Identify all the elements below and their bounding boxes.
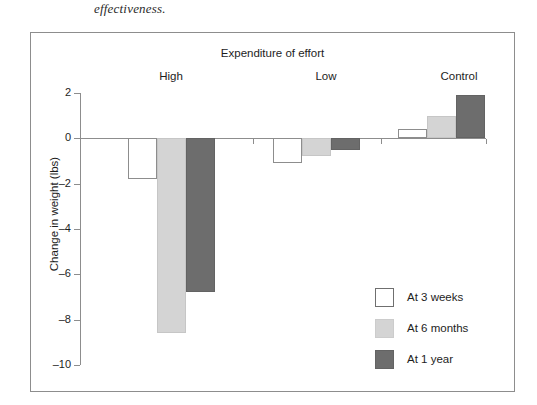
y-axis-line	[80, 93, 81, 365]
y-tick	[74, 229, 80, 230]
y-axis-title: Change in weight (lbs)	[48, 129, 60, 299]
bar-low-series1	[302, 138, 331, 156]
bar-control-series0	[398, 129, 427, 138]
y-tick	[74, 365, 80, 366]
y-tick	[74, 320, 80, 321]
y-tick-label: 2	[31, 86, 71, 98]
page-caption: effectiveness.	[94, 1, 166, 17]
bar-high-series2	[186, 138, 215, 292]
y-tick-label: –10	[31, 358, 71, 370]
y-tick	[74, 93, 80, 94]
legend-swatch	[375, 319, 394, 338]
bar-low-series0	[273, 138, 302, 163]
y-tick	[74, 274, 80, 275]
plot-area: 20–2–4–6–8–10	[31, 33, 516, 393]
bar-high-series0	[128, 138, 157, 179]
x-tick	[80, 139, 81, 144]
y-tick-label: –8	[31, 313, 71, 325]
bar-control-series1	[427, 116, 456, 139]
bar-low-series2	[331, 138, 360, 149]
legend-label: At 1 year	[407, 353, 453, 365]
bar-high-series1	[157, 138, 186, 333]
x-tick	[381, 139, 382, 144]
legend-swatch	[375, 350, 394, 369]
bar-control-series2	[456, 95, 485, 138]
legend-swatch	[375, 288, 394, 307]
legend-label: At 3 weeks	[407, 291, 463, 303]
figure-frame: Expenditure of effort High Low Control 2…	[30, 32, 515, 392]
x-tick	[486, 139, 487, 144]
x-tick	[253, 139, 254, 144]
y-tick	[74, 184, 80, 185]
legend-label: At 6 months	[407, 322, 468, 334]
